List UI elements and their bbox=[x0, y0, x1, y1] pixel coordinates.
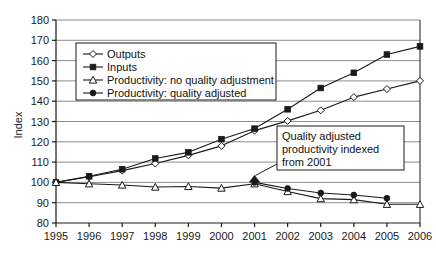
filled-circle-marker bbox=[384, 195, 390, 201]
x-tick-label: 2003 bbox=[308, 230, 332, 242]
x-tick-label: 2002 bbox=[275, 230, 299, 242]
y-tick-label: 130 bbox=[31, 116, 49, 128]
filled-square-marker bbox=[318, 85, 324, 91]
filled-circle-marker bbox=[90, 90, 96, 96]
filled-square-marker bbox=[351, 70, 357, 76]
filled-square-marker bbox=[285, 107, 291, 113]
legend-label: Productivity: no quality adjustment bbox=[107, 74, 274, 86]
legend-label: Inputs bbox=[107, 61, 137, 73]
x-tick-label: 2000 bbox=[209, 230, 233, 242]
filled-square-marker bbox=[119, 166, 125, 172]
filled-square-marker bbox=[417, 44, 423, 50]
filled-square-marker bbox=[90, 64, 96, 70]
filled-square-marker bbox=[86, 174, 92, 180]
y-tick-label: 150 bbox=[31, 75, 49, 87]
y-tick-label: 100 bbox=[31, 176, 49, 188]
filled-square-marker bbox=[152, 156, 158, 162]
x-tick-label: 2004 bbox=[342, 230, 366, 242]
y-tick-label: 120 bbox=[31, 136, 49, 148]
filled-square-marker bbox=[384, 52, 390, 58]
y-tick-label: 180 bbox=[31, 14, 49, 26]
annotation-line-1: Quality adjusted bbox=[282, 130, 361, 142]
y-tick-label: 90 bbox=[37, 197, 49, 209]
filled-circle-marker bbox=[318, 190, 324, 196]
y-tick-label: 80 bbox=[37, 217, 49, 229]
legend-label: Productivity: quality adjusted bbox=[107, 87, 246, 99]
x-tick-label: 1995 bbox=[44, 230, 68, 242]
annotation-line-3: from 2001 bbox=[282, 156, 332, 168]
legend-item-productivity-no-quality-adjustment[interactable]: Productivity: no quality adjustment bbox=[83, 74, 274, 86]
x-tick-label: 1999 bbox=[176, 230, 200, 242]
annotation-line-2: productivity indexed bbox=[282, 143, 379, 155]
filled-square-marker bbox=[186, 150, 192, 156]
filled-circle-marker bbox=[285, 186, 291, 192]
y-tick-label: 170 bbox=[31, 34, 49, 46]
x-tick-label: 2006 bbox=[408, 230, 432, 242]
y-axis-title: Index bbox=[12, 111, 24, 138]
filled-square-marker bbox=[219, 136, 225, 142]
y-tick-label: 110 bbox=[31, 156, 49, 168]
x-tick-label: 1998 bbox=[143, 230, 167, 242]
annotation-group: Quality adjusted productivity indexed fr… bbox=[256, 126, 404, 175]
legend-item-productivity-quality-adjusted[interactable]: Productivity: quality adjusted bbox=[83, 87, 246, 99]
filled-square-marker bbox=[252, 126, 258, 132]
filled-circle-marker bbox=[351, 192, 357, 198]
y-tick-label: 160 bbox=[31, 55, 49, 67]
x-tick-label: 2005 bbox=[375, 230, 399, 242]
legend-label: Outputs bbox=[107, 48, 146, 60]
chart-figure: 8090100110120130140150160170180 19951996… bbox=[0, 0, 436, 262]
x-tick-label: 1996 bbox=[77, 230, 101, 242]
x-tick-label: 2001 bbox=[242, 230, 266, 242]
line-chart: 8090100110120130140150160170180 19951996… bbox=[0, 0, 436, 262]
x-tick-label: 1997 bbox=[110, 230, 134, 242]
chart-legend: Outputs Inputs Productivity: no quality … bbox=[76, 43, 276, 100]
y-tick-label: 140 bbox=[31, 95, 49, 107]
